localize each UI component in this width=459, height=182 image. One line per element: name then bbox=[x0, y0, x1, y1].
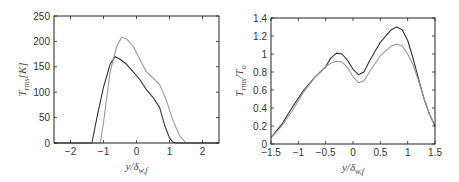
y-tick-label: 150 bbox=[33, 61, 50, 72]
y-tick-label: 0.6 bbox=[253, 85, 267, 96]
x-tick-label: 0 bbox=[350, 147, 356, 158]
x-axis-label: y/δw,f bbox=[124, 160, 149, 175]
y-tick-label: 0 bbox=[44, 138, 50, 149]
x-tick-label: 0 bbox=[134, 146, 140, 157]
y-tick-label: 0.8 bbox=[253, 67, 267, 78]
x-tick-label: −1 bbox=[98, 146, 110, 157]
y-tick-label: 100 bbox=[33, 87, 50, 98]
y-tick-label: 1.4 bbox=[253, 13, 267, 24]
y-axis-label: Trms[K] bbox=[16, 62, 31, 96]
y-tick-label: 200 bbox=[33, 36, 50, 47]
chart-right: −1.5−1−0.500.511.500.20.40.60.811.21.4y/… bbox=[233, 13, 442, 177]
y-tick-label: 1.2 bbox=[253, 31, 267, 42]
x-tick-label: 1 bbox=[405, 147, 411, 158]
y-axis-label: Trms/To bbox=[233, 65, 248, 96]
figure: −2−1012050100150200250y/δw,fTrms[K]−1.5−… bbox=[0, 0, 459, 182]
x-axis-label: y/δw,f bbox=[341, 161, 366, 176]
y-tick-label: 0.2 bbox=[253, 121, 267, 132]
series-light bbox=[271, 44, 435, 138]
axes-frame bbox=[54, 16, 219, 143]
x-tick-label: 1.5 bbox=[428, 147, 442, 158]
x-tick-label: 0.5 bbox=[373, 147, 387, 158]
y-tick-label: 50 bbox=[39, 112, 51, 123]
x-tick-label: 2 bbox=[200, 146, 206, 157]
series-light bbox=[54, 37, 219, 143]
x-tick-label: −0.5 bbox=[316, 147, 336, 158]
chart-left: −2−1012050100150200250y/δw,fTrms[K] bbox=[16, 11, 219, 176]
x-tick-label: −1 bbox=[293, 147, 305, 158]
x-tick-label: 1 bbox=[167, 146, 173, 157]
y-tick-label: 0.4 bbox=[253, 103, 267, 114]
y-tick-label: 1 bbox=[261, 49, 267, 60]
y-tick-label: 0 bbox=[261, 139, 267, 150]
axes-frame bbox=[271, 18, 435, 144]
x-tick-label: −2 bbox=[65, 146, 77, 157]
series-dark bbox=[54, 57, 219, 143]
y-tick-label: 250 bbox=[33, 11, 50, 22]
series-dark bbox=[271, 27, 435, 138]
